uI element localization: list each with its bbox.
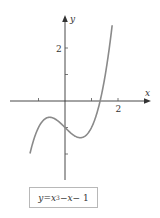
function-graph: y x 2 2 [0, 0, 160, 218]
y-tick-label-2: 2 [56, 44, 62, 54]
equation-label: y = x3 − x − 1 [29, 187, 98, 208]
x-axis-label: x [145, 88, 150, 98]
y-axis-arrow-icon [62, 15, 68, 22]
equals-sign: = [43, 193, 51, 203]
equation-constant: − 1 [73, 193, 89, 203]
cubic-curve [30, 25, 112, 153]
minus-sign: − [60, 193, 68, 203]
x-axis-arrow-icon [144, 98, 151, 104]
y-axis-label: y [69, 14, 76, 24]
x-tick-label-2: 2 [116, 104, 122, 114]
